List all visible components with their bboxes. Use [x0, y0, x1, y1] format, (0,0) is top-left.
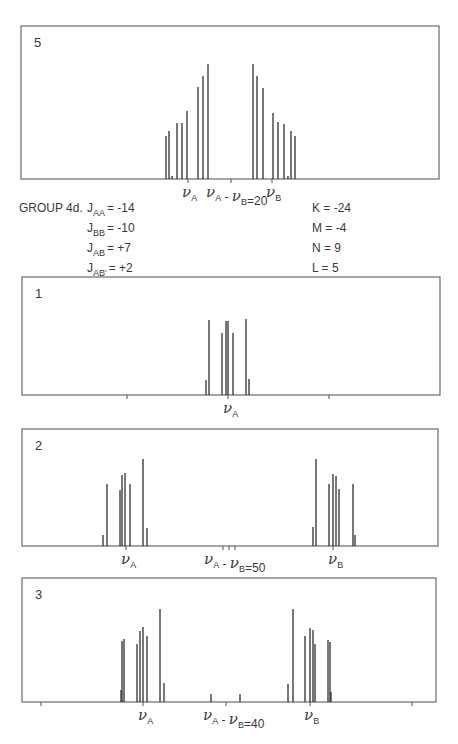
frequency-label: νA — [138, 706, 153, 726]
panel-number: 5 — [34, 35, 41, 50]
coupling-constant-ab: JAB= +7 — [87, 241, 131, 258]
frequency-label: νA - νB=20 — [206, 183, 268, 208]
coupling-constant-bb: JBB= -10 — [87, 221, 135, 238]
param-m: M = -4 — [312, 221, 347, 235]
panel-number: 3 — [35, 587, 42, 602]
svg-text:νB: νB — [266, 183, 281, 203]
frequency-label: νB — [328, 550, 343, 570]
panel-frame — [22, 429, 438, 546]
spectrum-panel-5: 5νAνA - νB=20νB — [21, 26, 439, 208]
svg-text:νA: νA — [223, 399, 238, 419]
panel-frame — [22, 277, 440, 395]
svg-text:νA - νB=40: νA - νB=40 — [203, 706, 265, 731]
svg-text:νA: νA — [138, 706, 153, 726]
svg-text:νA - νB=20: νA - νB=20 — [206, 183, 268, 208]
spectrum-panel-3: 3νAνA - νB=40νB — [22, 578, 436, 731]
svg-text:νB: νB — [304, 706, 319, 726]
group-label: GROUP 4d. — [19, 201, 83, 215]
panel-number: 2 — [35, 438, 42, 453]
spectrum-panel-2: 2νAνA - νB=50νB — [22, 429, 438, 575]
nmr-spectra-figure: 5νAνA - νB=20νB1νA2νAνA - νB=50νB3νAνA -… — [0, 0, 458, 744]
panel-frame — [22, 578, 436, 702]
frequency-label: νA - νB=40 — [203, 706, 265, 731]
parameter-block: GROUP 4d. JAA= -14JBB= -10JAB= +7JAB'= +… — [19, 201, 351, 278]
frequency-label: νB — [266, 183, 281, 203]
svg-text:νA: νA — [121, 550, 136, 570]
frequency-label: νA — [121, 550, 136, 570]
param-k: K = -24 — [312, 201, 351, 215]
param-n: N = 9 — [312, 241, 341, 255]
frequency-label: νA - νB=50 — [204, 550, 266, 575]
panel-frame — [21, 26, 439, 179]
svg-text:νA - νB=50: νA - νB=50 — [204, 550, 266, 575]
frequency-label: νA — [223, 399, 238, 419]
param-l: L = 5 — [312, 261, 339, 275]
coupling-constant-aa: JAA= -14 — [87, 201, 135, 218]
panel-number: 1 — [35, 286, 42, 301]
spectrum-panel-1: 1νA — [22, 277, 440, 419]
svg-text:νA: νA — [182, 183, 197, 203]
frequency-label: νA — [182, 183, 197, 203]
frequency-label: νB — [304, 706, 319, 726]
coupling-constant-abprime: JAB'= +2 — [87, 261, 133, 278]
svg-text:νB: νB — [328, 550, 343, 570]
